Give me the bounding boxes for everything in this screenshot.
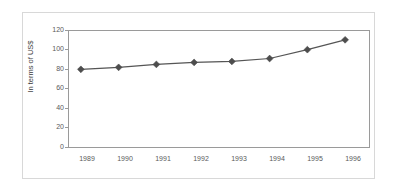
line-chart-series bbox=[0, 0, 399, 190]
data-point-marker bbox=[115, 64, 122, 71]
chart-figure: In terms of US$ 120 100 80 60 40 20 0 19… bbox=[0, 0, 399, 190]
series-markers-group bbox=[77, 36, 348, 72]
data-point-marker bbox=[153, 61, 160, 68]
series-line-path bbox=[81, 40, 345, 70]
data-point-marker bbox=[342, 36, 349, 43]
data-point-marker bbox=[228, 58, 235, 65]
data-point-marker bbox=[77, 66, 84, 73]
data-point-marker bbox=[266, 55, 273, 62]
data-point-marker bbox=[191, 59, 198, 66]
data-point-marker bbox=[304, 46, 311, 53]
